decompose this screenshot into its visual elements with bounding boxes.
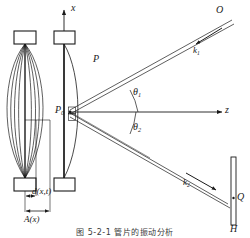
left-mode-curve bbox=[25, 44, 39, 178]
origin-label: P0 bbox=[55, 104, 64, 116]
screen-plate bbox=[231, 157, 236, 225]
left-mode-curve bbox=[25, 44, 43, 178]
left-vibration-diagram bbox=[7, 31, 50, 212]
beam-point-label: P bbox=[93, 53, 99, 64]
left-top-support bbox=[14, 31, 36, 44]
theta1-label: θ1 bbox=[133, 86, 141, 98]
figure-caption: 图 5-2-1 管片的振动分析 bbox=[0, 227, 250, 238]
x-axis-label: x bbox=[71, 2, 75, 13]
left-mode-curve bbox=[11, 44, 25, 178]
screen-point-marker bbox=[232, 197, 234, 199]
diffracted-ray-edge-a bbox=[70, 113, 228, 204]
screen-point-label: Q bbox=[237, 191, 244, 202]
ray-fan-line bbox=[70, 112, 150, 158]
k1-vector-arrow bbox=[196, 28, 222, 44]
k2-label: k2 bbox=[183, 177, 190, 188]
left-mode-curve bbox=[25, 44, 31, 178]
diffracted-beam-group bbox=[70, 112, 230, 208]
k1-label: k1 bbox=[193, 45, 200, 56]
diffracted-ray-edge-b bbox=[70, 117, 230, 208]
left-mode-curve bbox=[19, 44, 25, 178]
figure-container: x z P0 P O k1 k2 θ1 θ2 Q H d(x,t) A(x) 图… bbox=[0, 0, 250, 238]
center-top-support bbox=[54, 31, 75, 44]
z-axis-label: z bbox=[225, 104, 229, 115]
screen-group bbox=[231, 157, 236, 225]
incident-ray-edge-b bbox=[70, 24, 234, 114]
left-mode-curve bbox=[7, 44, 25, 178]
incident-ray-edge-a bbox=[70, 20, 232, 110]
center-beam-diagram bbox=[54, 10, 78, 191]
source-point-label: O bbox=[216, 4, 223, 15]
theta2-label: θ2 bbox=[133, 121, 141, 133]
diagram-canvas bbox=[0, 0, 250, 238]
center-bottom-support bbox=[54, 178, 75, 191]
displacement-label: d(x,t) bbox=[32, 186, 51, 196]
incident-beam-group bbox=[70, 20, 234, 114]
amplitude-label: A(x) bbox=[24, 214, 40, 224]
k2-vector-arrow bbox=[186, 173, 216, 190]
